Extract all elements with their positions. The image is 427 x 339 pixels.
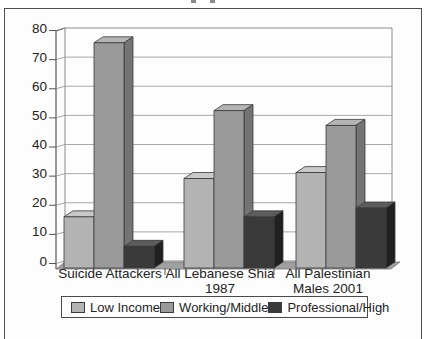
category-label-0-line-0: Suicide Attackers bbox=[58, 266, 162, 281]
bar-low-income-2 bbox=[296, 173, 326, 268]
category-label-1-line-1: 1987 bbox=[205, 281, 235, 296]
bar-side-professional-high-2 bbox=[386, 202, 395, 268]
bar-working-middle-1 bbox=[214, 111, 244, 268]
category-label-2-line-1: Males 2001 bbox=[293, 281, 363, 296]
ytick-label-60: 60 bbox=[32, 79, 47, 94]
legend-swatch-professional-high bbox=[268, 302, 282, 313]
legend-item-working-middle: Working/Middle bbox=[160, 300, 268, 315]
ytick-label-80: 80 bbox=[32, 21, 47, 36]
bar-working-middle-0 bbox=[94, 43, 124, 268]
legend-label-low-income: Low Income bbox=[90, 300, 160, 315]
ytick-label-20: 20 bbox=[32, 195, 47, 210]
ytick-depth-80 bbox=[56, 28, 65, 31]
legend-item-low-income: Low Income bbox=[71, 300, 160, 315]
bar-professional-high-1 bbox=[244, 217, 274, 268]
ytick-label-40: 40 bbox=[32, 137, 47, 152]
chart-legend: Low Income Working/Middle Professional/H… bbox=[61, 296, 368, 318]
bar-professional-high-2 bbox=[356, 208, 386, 268]
bar-working-middle-2 bbox=[326, 125, 356, 268]
bar-low-income-1 bbox=[184, 179, 214, 269]
legend-swatch-working-middle bbox=[160, 302, 174, 313]
bar-low-income-0 bbox=[64, 217, 94, 268]
ytick-label-70: 70 bbox=[32, 50, 47, 65]
ytick-depth-20 bbox=[56, 203, 65, 206]
ytick-depth-50 bbox=[56, 115, 65, 118]
bar-side-professional-high-1 bbox=[274, 211, 283, 268]
legend-label-professional-high: Professional/High bbox=[287, 300, 389, 315]
ytick-label-0: 0 bbox=[39, 254, 47, 269]
bar-side-working-middle-0 bbox=[124, 37, 133, 268]
ytick-depth-60 bbox=[56, 86, 65, 89]
legend-label-working-middle: Working/Middle bbox=[179, 300, 268, 315]
ytick-depth-30 bbox=[56, 174, 65, 177]
legend-swatch-low-income bbox=[71, 302, 85, 313]
ytick-label-10: 10 bbox=[32, 224, 47, 239]
ytick-depth-40 bbox=[56, 145, 65, 148]
bar-professional-high-0 bbox=[124, 246, 154, 268]
legend-item-professional-high: Professional/High bbox=[268, 300, 389, 315]
ytick-label-30: 30 bbox=[32, 166, 47, 181]
ytick-depth-70 bbox=[56, 57, 65, 60]
category-label-2-line-0: All Palestinian bbox=[286, 266, 371, 281]
ytick-label-50: 50 bbox=[32, 108, 47, 123]
category-label-1-line-0: All Lebanese Shia bbox=[166, 266, 275, 281]
